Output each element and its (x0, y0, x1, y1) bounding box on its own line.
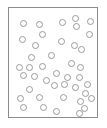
plot-frame (8, 7, 98, 118)
scatter-point (20, 20, 27, 27)
scatter-point (78, 46, 85, 53)
scatter-point (20, 104, 27, 111)
scatter-marker-layer (9, 8, 97, 117)
scatter-point (40, 104, 47, 111)
scatter-point (19, 36, 26, 43)
scatter-point (28, 54, 35, 61)
scatter-point (26, 86, 33, 93)
scatter-point (84, 81, 91, 88)
scatter-point (64, 74, 71, 81)
scatter-point (82, 90, 89, 97)
scatter-point (36, 21, 43, 28)
scatter-point (61, 81, 68, 88)
scatter-point (77, 98, 84, 105)
scatter-point (88, 95, 95, 102)
figure-root (0, 0, 107, 128)
scatter-point (59, 19, 66, 26)
scatter-point (71, 42, 78, 49)
scatter-point (77, 64, 84, 71)
scatter-point (20, 72, 27, 79)
scatter-point (53, 70, 60, 77)
scatter-point (73, 23, 80, 30)
scatter-point (68, 60, 75, 67)
scatter-point (58, 38, 65, 45)
scatter-point (87, 18, 94, 25)
scatter-point (86, 31, 93, 38)
scatter-point (76, 74, 83, 81)
scatter-point (51, 82, 58, 89)
scatter-point (31, 73, 38, 80)
scatter-point (43, 77, 50, 84)
scatter-point (32, 42, 39, 49)
scatter-point (81, 105, 88, 112)
scatter-point (36, 94, 43, 101)
scatter-point (16, 64, 23, 71)
scatter-point (26, 64, 33, 71)
scatter-point (60, 94, 67, 101)
scatter-point (72, 15, 79, 22)
scatter-point (39, 31, 46, 38)
scatter-point (72, 84, 79, 91)
scatter-point (17, 95, 24, 102)
scatter-point (39, 63, 46, 70)
scatter-point (76, 110, 83, 117)
scatter-point (48, 52, 55, 59)
scatter-point (53, 108, 60, 115)
